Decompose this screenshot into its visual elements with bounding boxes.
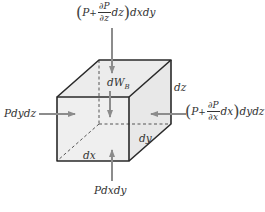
partial-derivative-fraction: ∂P∂x: [207, 101, 220, 122]
plus-sign: +: [198, 107, 206, 117]
right-force-label: (P+∂P∂xdx)dydz: [185, 101, 264, 122]
fraction-denominator: ∂z: [100, 13, 109, 23]
fraction-numerator: ∂P: [207, 101, 220, 112]
bottom-force-label: Pdxdy: [94, 185, 126, 196]
top-force-label: (P+∂P∂zdz)dxdy: [76, 2, 155, 23]
fraction-numerator: ∂P: [98, 2, 111, 13]
body-force-label: dWB: [107, 77, 130, 91]
dimension-dy-label: dy: [139, 133, 152, 144]
differential-term: dz: [112, 6, 124, 18]
fraction-denominator: ∂x: [208, 112, 218, 122]
dimension-dz-label: dz: [174, 82, 186, 93]
body-force-symbol: dW: [107, 76, 125, 88]
area-term: dxdy: [130, 6, 155, 18]
differential-term: dx: [221, 105, 234, 117]
left-force-label: Pdydz: [4, 108, 36, 119]
body-force-subscript: B: [125, 83, 130, 91]
area-term: dydz: [240, 105, 265, 117]
dimension-dx-label: dx: [83, 150, 96, 161]
partial-derivative-fraction: ∂P∂z: [98, 2, 111, 23]
plus-sign: +: [89, 8, 97, 18]
